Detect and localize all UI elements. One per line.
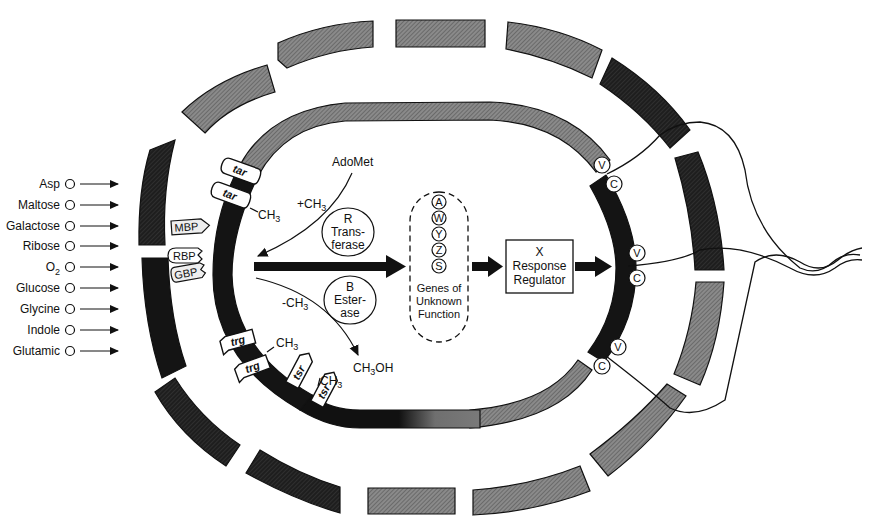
ligand-label-o2: O2 (46, 260, 60, 277)
ligand-label: Glutamic (13, 344, 60, 358)
ligand-item: O2 (46, 260, 118, 277)
ligand-item: Ribose (23, 239, 118, 253)
gene-list: A W Y Z S (432, 195, 446, 273)
binding-protein-rbp: RBP (168, 248, 202, 263)
outer-segment (139, 140, 175, 245)
switch-c: C (598, 360, 606, 372)
ligand-item: Galactose (6, 219, 118, 233)
ligand-label: Glycine (20, 302, 60, 316)
ligand-label: Ribose (23, 239, 61, 253)
inner-membrane-lower-right (470, 360, 592, 428)
ligand-label: Asp (39, 177, 60, 191)
transferase-line2: ferase (331, 238, 365, 252)
switch-c: C (633, 272, 641, 284)
methyl-label-tsr: CH3 (320, 374, 342, 390)
ligand-label: Galactose (6, 219, 60, 233)
minus-methyl-label: -CH3 (282, 296, 308, 312)
gene-a: A (435, 196, 443, 208)
outer-segment (473, 466, 590, 515)
outer-segment (396, 20, 485, 47)
receptor-tsr: tsr (286, 350, 315, 388)
outer-segment (674, 282, 724, 385)
ligand-circle-icon (66, 284, 75, 293)
ligand-item: Glutamic (13, 344, 118, 358)
regulator-to-motor-arrow (575, 256, 612, 277)
transferase-node: R Trans- ferase (322, 208, 374, 256)
outer-segment (278, 21, 373, 68)
genes-caption-line2: Unknown (416, 295, 462, 307)
transferase-line1: Trans- (331, 225, 365, 239)
ligand-circle-icon (66, 180, 75, 189)
ligand-circle-icon (66, 201, 75, 210)
transferase-letter: R (344, 212, 353, 226)
esterase-line1: Ester- (334, 293, 366, 307)
ligand-item: Indole (27, 323, 118, 337)
ligand-item: Glucose (16, 281, 118, 295)
outer-segment (506, 22, 602, 78)
ligand-item: Maltose (18, 198, 118, 212)
ligand-circle-icon (66, 347, 75, 356)
ligand-item: Glycine (20, 302, 118, 316)
switch-c: C (610, 178, 618, 190)
adomet-label: AdoMet (332, 155, 374, 169)
genes-to-regulator-arrow (472, 256, 503, 277)
main-signal-arrow (254, 255, 406, 278)
methyl-label-tar: CH3 (258, 208, 280, 224)
gene-w: W (434, 212, 445, 224)
outer-segment (675, 152, 724, 270)
flagellum-middle (628, 248, 862, 275)
ligand-label: Maltose (18, 198, 60, 212)
regulator-line1: Response (512, 259, 566, 273)
plus-methyl-label: +CH3 (297, 197, 326, 213)
ligand-circle-icon (66, 263, 75, 272)
inner-membrane-top (240, 102, 610, 176)
mbp-label: MBP (174, 220, 199, 234)
esterase-letter: B (346, 280, 354, 294)
outer-segment (246, 450, 340, 513)
binding-protein-mbp: MBP (171, 218, 210, 235)
ligand-list: Asp Maltose Galactose Ribose O2 Glucose (6, 177, 118, 358)
outer-segment (368, 488, 455, 514)
ligand-circle-icon (66, 305, 75, 314)
gene-y: Y (435, 228, 443, 240)
outer-segment (182, 65, 275, 133)
ligand-item: Asp (39, 177, 118, 191)
switch-v: V (614, 341, 622, 353)
gene-z: Z (436, 244, 443, 256)
genes-caption-line1: Genes of (417, 282, 463, 294)
response-regulator: X Response Regulator (506, 240, 573, 293)
chemotaxis-diagram: Asp Maltose Galactose Ribose O2 Glucose (0, 0, 870, 525)
genes-caption-line3: Function (418, 308, 460, 320)
ligand-label: Indole (27, 323, 60, 337)
methanol-label: CH3OH (353, 361, 393, 377)
regulator-line2: Regulator (513, 273, 565, 287)
outer-segment (600, 58, 690, 148)
binding-protein-gbp: GBP (170, 262, 206, 283)
flagellum-bottom (606, 248, 862, 413)
switch-v: V (598, 159, 606, 171)
methyl-bond (267, 347, 274, 352)
esterase-node: B Ester- ase (324, 276, 376, 324)
ligand-circle-icon (66, 242, 75, 251)
outer-segment (155, 378, 240, 466)
methyl-bond (250, 208, 258, 212)
ligand-label: Glucose (16, 281, 60, 295)
methyl-label-trg: CH3 (276, 336, 298, 352)
binding-proteins: MBP RBP GBP (168, 218, 210, 282)
rbp-label: RBP (173, 250, 196, 262)
outer-segment (590, 384, 686, 476)
gene-s: S (435, 260, 442, 272)
flagella (606, 122, 862, 413)
regulator-letter: X (535, 245, 543, 259)
switch-v: V (633, 247, 641, 259)
genes-unknown-function: A W Y Z S Genes of Unknown Function (410, 192, 468, 342)
ligand-circle-icon (66, 222, 75, 231)
ligand-circle-icon (66, 326, 75, 335)
esterase-line2: ase (340, 306, 360, 320)
